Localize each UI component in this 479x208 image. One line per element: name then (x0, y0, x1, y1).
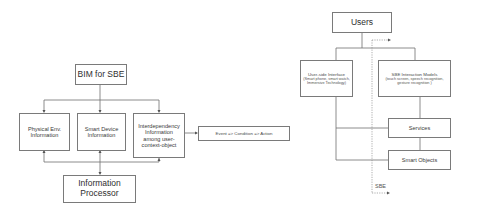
smart-objects-box: Smart Objects (388, 150, 451, 170)
interdependency-info-label: Interdependency Information among user-c… (136, 123, 182, 149)
bim-for-sbe-box: BIM for SBE (75, 64, 127, 85)
interdependency-info-box: Interdependency Information among user-c… (133, 113, 185, 158)
user-side-interface-detail: (Smart phone, smart watch, Immersive Tec… (303, 77, 350, 86)
services-label: Services (409, 125, 430, 131)
user-side-interface-box: User-side Interface (Smart phone, smart … (300, 60, 353, 97)
sbe-interaction-models-box: SBE Interaction Models (touch screen, sp… (378, 60, 451, 97)
smart-device-info-label: Smart Device Information (82, 126, 121, 139)
smart-device-info-box: Smart Device Information (77, 113, 126, 151)
bim-for-sbe-label: BIM for SBE (78, 70, 125, 80)
information-processor-box: Information Processor (63, 175, 136, 203)
information-processor-label: Information Processor (72, 179, 127, 199)
physical-env-info-box: Physical Env. Information (19, 113, 70, 151)
event-condition-action-label: Event => Condition => Action (216, 131, 273, 136)
sbe-interaction-models-detail: (touch screen, speech recognition, gestu… (382, 77, 447, 86)
smart-objects-label: Smart Objects (402, 157, 437, 163)
users-box: Users (332, 12, 392, 33)
services-box: Services (388, 118, 451, 138)
sbe-boundary-label: SBE (375, 183, 386, 189)
users-label: Users (351, 18, 373, 28)
event-condition-action-box: Event => Condition => Action (198, 126, 290, 141)
physical-env-info-label: Physical Env. Information (23, 126, 66, 139)
